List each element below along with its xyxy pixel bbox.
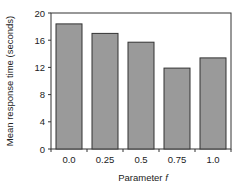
bar-0.25 bbox=[92, 33, 118, 149]
x-tick-label: 0.0 bbox=[62, 154, 75, 165]
y-tick-label: 16 bbox=[34, 35, 45, 46]
y-tick-label: 12 bbox=[34, 62, 45, 73]
y-tick-label: 4 bbox=[40, 116, 45, 127]
bars bbox=[56, 24, 226, 149]
y-axis: 048121620 bbox=[34, 8, 51, 155]
x-tick-label: 0.5 bbox=[134, 154, 147, 165]
x-axis-label: Parameter f bbox=[118, 172, 169, 183]
bar-0.0 bbox=[56, 24, 82, 149]
y-tick-label: 8 bbox=[40, 89, 45, 100]
y-tick-label: 0 bbox=[40, 144, 45, 155]
x-axis-label-prefix: Parameter bbox=[118, 172, 165, 183]
y-tick-label: 20 bbox=[34, 8, 45, 19]
x-axis-label-variable: f bbox=[165, 172, 169, 183]
x-tick-label: 0.25 bbox=[96, 154, 115, 165]
bar-chart: 048121620 0.00.250.50.751.0 Mean respons… bbox=[0, 0, 243, 195]
x-tick-label: 0.75 bbox=[168, 154, 187, 165]
bar-0.5 bbox=[128, 42, 154, 149]
bar-0.75 bbox=[164, 68, 190, 149]
bar-1.0 bbox=[200, 58, 226, 149]
y-axis-label: Mean response time (seconds) bbox=[4, 16, 15, 146]
x-axis: 0.00.250.50.751.0 bbox=[51, 149, 231, 165]
x-tick-label: 1.0 bbox=[206, 154, 219, 165]
